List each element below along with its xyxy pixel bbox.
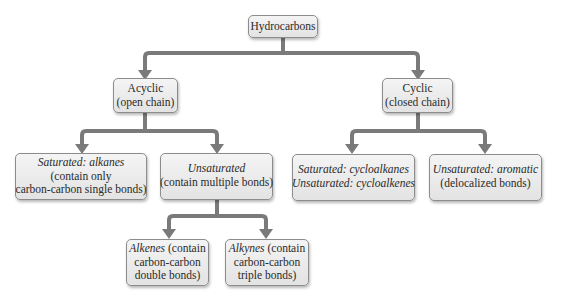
node-label-rest: (contain	[165, 242, 206, 254]
node-label-line: Alkenes (contain	[129, 242, 205, 256]
node-sublabel: double bonds)	[135, 269, 200, 283]
node-sublabel: (contain multiple bonds)	[160, 176, 273, 190]
node-hydrocarbons: Hydrocarbons	[248, 15, 318, 38]
node-label: Alkenes	[129, 242, 165, 254]
node-saturated-alkanes: Saturated: alkanes (contain only carbon-…	[15, 153, 147, 200]
node-sublabel: (closed chain)	[385, 96, 450, 110]
node-label: Cyclic	[402, 82, 432, 96]
node-label: Unsaturated: aromatic	[433, 163, 538, 177]
node-label: Saturated: alkanes	[38, 156, 125, 170]
node-sublabel: carbon-carbon	[134, 256, 200, 270]
node-sublabel: triple bonds)	[238, 269, 296, 283]
node-sublabel: carbon-carbon single bonds)	[16, 183, 147, 197]
node-cyclic: Cyclic (closed chain)	[382, 78, 453, 113]
node-sublabel: (open chain)	[117, 96, 175, 110]
node-unsaturated: Unsaturated (contain multiple bonds)	[160, 153, 273, 200]
node-alkynes: Alkynes (contain carbon-carbon triple bo…	[225, 239, 309, 286]
node-sublabel: (delocalized bonds)	[440, 177, 530, 191]
node-aromatic: Unsaturated: aromatic (delocalized bonds…	[429, 154, 542, 201]
node-label-line: Alkynes (contain	[229, 242, 305, 256]
node-label: Unsaturated: cycloalkenes	[292, 177, 415, 191]
node-acyclic: Acyclic (open chain)	[113, 78, 178, 113]
node-label: Acyclic	[128, 82, 164, 96]
node-sublabel: (contain only	[51, 170, 112, 184]
node-sublabel: carbon-carbon	[234, 256, 300, 270]
node-label: Hydrocarbons	[250, 20, 315, 34]
node-alkenes: Alkenes (contain carbon-carbon double bo…	[126, 239, 209, 286]
node-label: Saturated: cycloalkanes	[298, 163, 409, 177]
node-cycloalkanes-cycloalkenes: Saturated: cycloalkanes Unsaturated: cyc…	[292, 154, 415, 201]
node-label: Alkynes	[229, 242, 265, 254]
node-label: Unsaturated	[188, 162, 246, 176]
node-label-rest: (contain	[265, 242, 306, 254]
